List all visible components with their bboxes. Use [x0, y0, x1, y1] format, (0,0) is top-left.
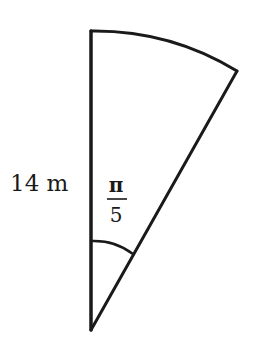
- slanted-radius: [91, 71, 237, 330]
- angle-numerator: π: [109, 173, 124, 197]
- angle-marker-arc: [91, 241, 133, 254]
- sector-diagram: 14 m π 5: [0, 0, 260, 357]
- angle-denominator: 5: [110, 203, 123, 227]
- radius-label: 14 m: [10, 170, 69, 196]
- sector-arc: [91, 31, 237, 71]
